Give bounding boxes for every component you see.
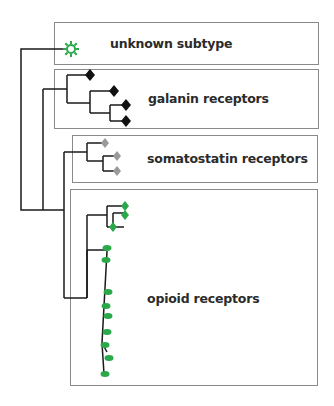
tree-branches	[21, 49, 124, 374]
label-galanin-receptors: galanin receptors	[148, 91, 269, 106]
oval-icon	[103, 329, 112, 335]
phylogenetic-tree	[0, 0, 334, 406]
label-somatostatin-receptors: somatostatin receptors	[147, 151, 308, 166]
label-unknown-subtype: unknown subtype	[110, 36, 232, 51]
oval-icon	[104, 289, 113, 295]
diamond-icon	[101, 138, 109, 148]
diamond-icon	[113, 166, 121, 176]
diamond-icon	[121, 99, 131, 111]
oval-icon	[105, 355, 114, 361]
oval-icon	[102, 303, 111, 309]
star-icon	[63, 41, 79, 57]
diamond-icon	[121, 115, 131, 127]
diamond-icon	[113, 151, 121, 161]
oval-icon	[101, 371, 110, 377]
diamond-icon	[121, 201, 129, 211]
oval-icon	[102, 257, 111, 263]
oval-icon	[104, 313, 113, 319]
diamond-icon	[109, 85, 119, 97]
oval-icon	[101, 342, 110, 348]
label-opioid-receptors: opioid receptors	[147, 291, 259, 306]
oval-icon	[103, 245, 112, 251]
galanin-leaves	[85, 69, 131, 127]
diamond-icon	[85, 69, 95, 81]
diamond-icon	[121, 210, 129, 220]
diamond-icon	[109, 222, 117, 232]
